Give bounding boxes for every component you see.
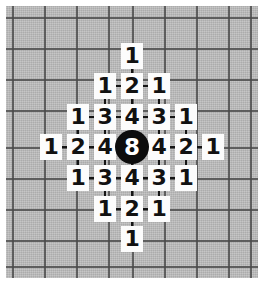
cell-r3-c2[interactable]: 2 bbox=[67, 134, 89, 160]
cell-r3-c1[interactable]: 1 bbox=[40, 134, 62, 160]
gridline-vertical-7 bbox=[228, 6, 230, 278]
cell-r1-c5[interactable]: 1 bbox=[148, 73, 170, 99]
cell-r5-c3[interactable]: 1 bbox=[94, 196, 116, 222]
graph-paper-panel: 112113431124421134311211 8 bbox=[6, 6, 258, 278]
cell-r5-c4[interactable]: 2 bbox=[121, 196, 143, 222]
cell-r1-c3[interactable]: 1 bbox=[94, 73, 116, 99]
cell-r4-c4[interactable]: 4 bbox=[121, 165, 143, 191]
cell-r2-c4[interactable]: 4 bbox=[121, 104, 143, 130]
cell-r3-c5[interactable]: 4 bbox=[148, 134, 170, 160]
cell-r6-c4[interactable]: 1 bbox=[121, 226, 143, 252]
cell-r5-c5[interactable]: 1 bbox=[148, 196, 170, 222]
cell-r1-c4[interactable]: 2 bbox=[121, 73, 143, 99]
cell-r4-c3[interactable]: 3 bbox=[94, 165, 116, 191]
cell-r4-c6[interactable]: 1 bbox=[175, 165, 197, 191]
cell-r2-c6[interactable]: 1 bbox=[175, 104, 197, 130]
center-node-value[interactable]: 8 bbox=[115, 130, 149, 164]
gridline-horizontal-0 bbox=[6, 17, 258, 19]
cell-r4-c2[interactable]: 1 bbox=[67, 165, 89, 191]
gridline-vertical-8 bbox=[250, 6, 252, 278]
cell-r2-c3[interactable]: 3 bbox=[94, 104, 116, 130]
figure-canvas: 112113431124421134311211 8 bbox=[0, 0, 264, 293]
cell-r3-c6[interactable]: 2 bbox=[175, 134, 197, 160]
cell-r2-c2[interactable]: 1 bbox=[67, 104, 89, 130]
cell-r3-c7[interactable]: 1 bbox=[202, 134, 224, 160]
cell-r3-c3[interactable]: 4 bbox=[94, 134, 116, 160]
cell-r2-c5[interactable]: 3 bbox=[148, 104, 170, 130]
cell-r4-c5[interactable]: 3 bbox=[148, 165, 170, 191]
gridline-vertical-0 bbox=[12, 6, 14, 278]
cell-r0-c4[interactable]: 1 bbox=[121, 43, 143, 69]
gridline-horizontal-8 bbox=[6, 266, 258, 268]
